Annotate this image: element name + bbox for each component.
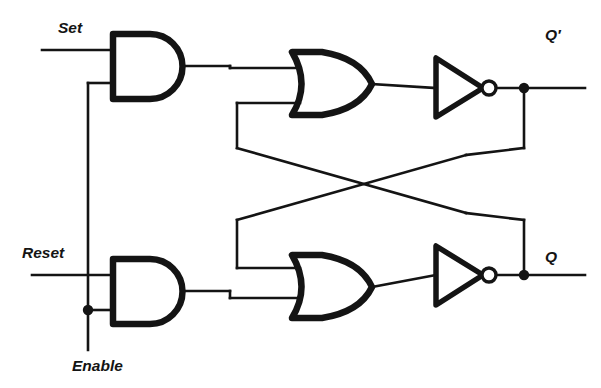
wire-or-top-to-inverter <box>372 84 436 88</box>
wire-qnot-feedback-diagonal <box>237 155 466 220</box>
wire-or-bottom-to-inverter <box>372 275 436 287</box>
wire-q-feedback-diagonal <box>237 148 466 213</box>
output-label-q: Q <box>545 248 557 265</box>
wire-qnot-feedback-step <box>466 148 524 155</box>
input-label-set: Set <box>58 19 83 36</box>
wire-q-feedback-step <box>466 213 524 220</box>
inverter-bubble-bottom <box>482 268 496 282</box>
and-gate-top <box>113 34 182 99</box>
inverter-bubble-top <box>482 81 496 95</box>
inverter-triangle-bottom <box>436 246 483 305</box>
output-label-q-not: Q′ <box>545 26 562 43</box>
inverter-triangle-top <box>436 58 483 117</box>
junction-dot-q-not <box>519 83 529 93</box>
logic-diagram-canvas: Set Reset Enable Q′ Q <box>0 0 601 388</box>
or-gate-bottom <box>292 255 372 318</box>
and-gate-bottom <box>113 259 183 324</box>
junction-dot-enable-tap <box>83 305 93 315</box>
junction-dot-q <box>519 270 529 280</box>
or-gate-top <box>292 52 372 115</box>
circuit-schematic: Set Reset Enable Q′ Q <box>0 0 601 388</box>
input-label-reset: Reset <box>22 244 65 261</box>
input-label-enable: Enable <box>72 357 123 374</box>
